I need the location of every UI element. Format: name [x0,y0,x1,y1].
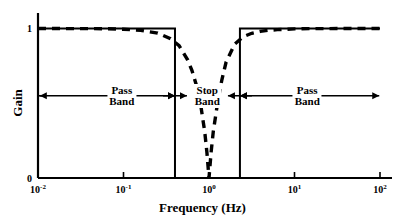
x-tick-label: 102 [373,183,387,195]
x-tick-label: 10-2 [30,183,46,195]
pass-band-right-label-line: Band [295,96,320,107]
stop-band-arrow-head-right [228,92,235,99]
stop-band-edge-head-left [168,92,175,99]
stop-band-label-line: Band [195,96,220,107]
y-tick-label: 1 [4,23,32,34]
pass-band-right-arrow-head-right [372,92,379,99]
x-tick-label: 101 [288,183,302,195]
pass-band-right-label: PassBand [293,84,322,108]
pass-band-left-label: PassBand [107,84,136,108]
pass-band-right-arrow-head-left [240,92,247,99]
y-tick-label: 0 [4,173,32,184]
band-stop-filter-chart: Frequency (Hz) Gain 10-210-1100101102 01… [0,0,405,223]
pass-band-left-label-line: Band [109,96,134,107]
stop-band-arrow-head-left [180,92,187,99]
x-tick-label: 10-1 [116,183,132,195]
x-tick-label: 100 [202,183,216,195]
x-axis-label: Frequency (Hz) [0,200,405,216]
y-axis-label: Gain [10,73,26,133]
pass-band-left-arrow-head-left [40,92,47,99]
stop-band-label: StopBand [193,84,222,108]
